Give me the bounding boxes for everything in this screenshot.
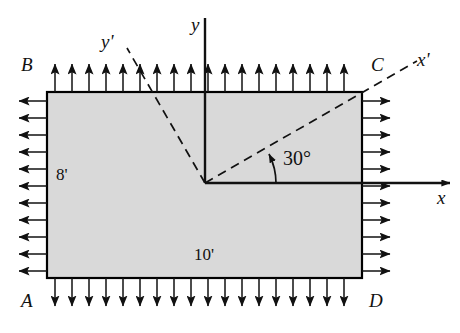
dimension-label-width: 10': [194, 246, 214, 263]
corner-label-b: B: [21, 55, 33, 74]
axis-label-x-prime: x': [417, 50, 430, 69]
angle-label-30deg: 30°: [283, 148, 311, 168]
bottom-edge-traction-arrows: [55, 278, 344, 306]
corner-label-a: A: [21, 291, 33, 310]
stress-element-figure: B C A D y x x' y' 8' 10' 30°: [0, 0, 460, 333]
axis-label-y-prime: y': [101, 32, 114, 51]
dimension-label-height: 8': [56, 166, 68, 183]
corner-label-c: C: [371, 55, 384, 74]
axis-label-y: y: [191, 15, 199, 34]
corner-label-d: D: [369, 291, 383, 310]
top-edge-traction-arrows: [55, 64, 344, 92]
right-edge-traction-arrows: [362, 101, 390, 271]
figure-canvas: [0, 0, 460, 333]
left-edge-traction-arrows: [19, 101, 47, 271]
axis-label-x: x: [437, 188, 445, 207]
